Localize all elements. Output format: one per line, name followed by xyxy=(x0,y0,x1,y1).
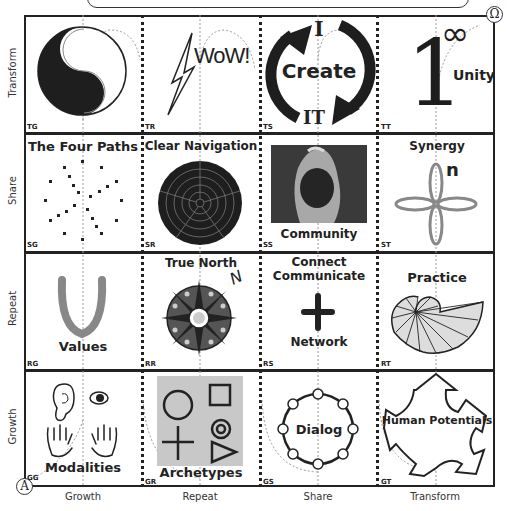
cell-code: GS xyxy=(263,478,274,486)
compass-rose-icon xyxy=(142,252,260,370)
human-potentials-label: Human Potentials xyxy=(378,414,496,427)
five-arrows-icon xyxy=(378,370,496,488)
nautilus-shell-icon xyxy=(378,252,496,370)
cell-tg: TG xyxy=(24,15,142,133)
cell-code: SR xyxy=(145,241,155,249)
column-label-transform: Transform xyxy=(376,491,494,502)
four-petal-icon xyxy=(378,133,496,251)
cell-gs: Dialog GS xyxy=(260,370,378,488)
cell-code: RG xyxy=(27,360,38,368)
cell-ts: I Create IT TS xyxy=(260,15,378,133)
cell-code: TS xyxy=(263,123,273,131)
cell-ss: Community SS xyxy=(260,133,378,251)
cell-sg: The Four Paths SG xyxy=(24,133,142,251)
cell-code: RR xyxy=(145,360,156,368)
cell-sr: Clear Navigation SR xyxy=(142,133,260,251)
row-label-transform: Transform xyxy=(7,43,18,103)
cell-rg: Values RG xyxy=(24,252,142,370)
infinity-icon: ∞ xyxy=(441,13,469,53)
plus-icon xyxy=(260,252,378,370)
cell-code: TG xyxy=(27,123,38,131)
cell-gg: Modalities GG xyxy=(24,370,142,488)
create-label: Create xyxy=(260,59,378,83)
cell-rs: Connect Communicate Network RS xyxy=(260,252,378,370)
modalities-label: Modalities xyxy=(24,460,142,475)
yin-yang-icon xyxy=(24,15,142,133)
network-label: Network xyxy=(260,335,378,349)
cell-tr: WoW! TR xyxy=(142,15,260,133)
values-label: Values xyxy=(24,339,142,354)
cell-code: TR xyxy=(145,123,155,131)
cell-code: RT xyxy=(381,360,391,368)
cell-rr: True North N RR xyxy=(142,252,260,370)
dialog-label: Dialog xyxy=(260,422,378,437)
wow-label: WoW! xyxy=(194,43,249,69)
lightning-bolt-icon xyxy=(142,15,260,133)
cell-gt: Human Potentials GT xyxy=(378,370,496,488)
community-label: Community xyxy=(260,227,378,241)
create-top-label: I xyxy=(260,17,378,41)
column-label-share: Share xyxy=(259,491,377,502)
cell-code: SS xyxy=(263,241,273,249)
column-label-repeat: Repeat xyxy=(141,491,259,502)
archetypes-label: Archetypes xyxy=(142,465,260,480)
unity-label: Unity xyxy=(453,67,495,83)
row-label-share: Share xyxy=(7,161,18,221)
cell-st: Synergy n ST xyxy=(378,133,496,251)
cell-code: TT xyxy=(381,123,391,131)
cell-gr: Archetypes GR xyxy=(142,370,260,488)
cell-code: GG xyxy=(27,474,39,482)
cell-code: GR xyxy=(145,478,156,486)
title-box xyxy=(87,0,469,8)
cell-rt: Practice RT xyxy=(378,252,496,370)
cell-code: SG xyxy=(27,241,38,249)
row-label-growth: Growth xyxy=(7,397,18,457)
cell-code: RS xyxy=(263,360,273,368)
column-label-growth: Growth xyxy=(24,491,142,502)
row-label-repeat: Repeat xyxy=(7,279,18,339)
cell-code: ST xyxy=(381,241,391,249)
cell-tt: 1 ∞ Unity TT xyxy=(378,15,496,133)
dot-pattern-icon xyxy=(24,133,142,251)
cell-code: GT xyxy=(381,478,391,486)
radar-target-icon xyxy=(142,133,260,251)
